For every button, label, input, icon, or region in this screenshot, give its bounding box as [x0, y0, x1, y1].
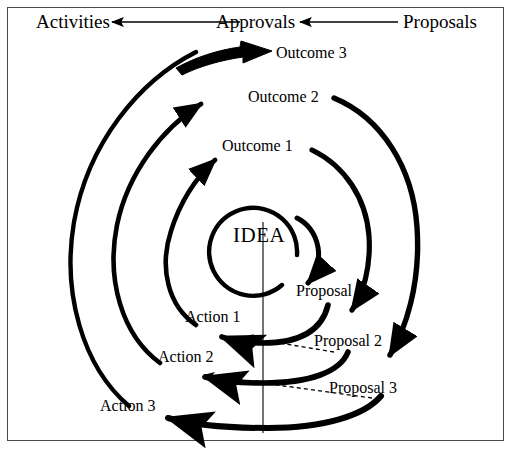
node-label-proposal-2: Proposal 2 — [314, 333, 382, 349]
node-label-approvals: Approvals — [216, 12, 295, 31]
idea-circle — [209, 208, 297, 296]
arc-action1-to-outcome1 — [166, 160, 215, 325]
node-label-outcome-1: Outcome 1 — [222, 138, 293, 154]
node-label-activities: Activities — [36, 12, 110, 31]
node-label-proposals: Proposals — [403, 12, 477, 31]
arc-idea-to-proposal1 — [297, 218, 319, 283]
diagram-page: Activities Approvals Proposals IDEA Outc… — [0, 0, 514, 455]
node-label-action-3: Action 3 — [100, 398, 156, 414]
arc-proposal3-to-action3 — [168, 396, 381, 428]
node-label-proposal-3: Proposal 3 — [329, 380, 397, 396]
node-label-outcome-2: Outcome 2 — [248, 89, 319, 105]
node-label-outcome-3: Outcome 3 — [276, 45, 347, 61]
arc-outcome2-to-proposal3 — [334, 98, 418, 355]
arrow-to-outcome3 — [176, 41, 272, 75]
node-label-action-2: Action 2 — [158, 349, 214, 365]
node-label-proposal-1: Proposal 1 — [296, 283, 364, 299]
node-label-action-1: Action 1 — [185, 309, 241, 325]
center-label-idea: IDEA — [233, 225, 285, 246]
